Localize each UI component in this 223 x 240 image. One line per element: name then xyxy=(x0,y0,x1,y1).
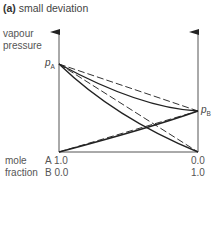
x-right-values: 0.0 1.0 xyxy=(191,155,205,179)
ideal-partial-pressure-A xyxy=(59,64,198,152)
pA-label: pA xyxy=(45,57,55,70)
pB-label: pB xyxy=(201,104,211,117)
ideal-lines xyxy=(59,64,198,152)
x-left-values: A 1.0 B 0.0 xyxy=(45,155,68,179)
x-axis-label: mole fraction xyxy=(5,155,38,179)
ideal-total-pressure xyxy=(59,64,198,111)
